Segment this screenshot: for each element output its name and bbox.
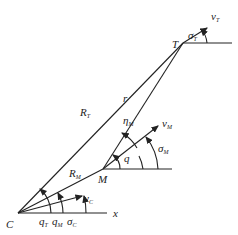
point-M-label: M [97, 173, 108, 185]
arc-q [139, 156, 143, 169]
vector-vM [103, 126, 158, 169]
sigmaM-label: σM [158, 142, 169, 155]
RT-label: RT [79, 106, 91, 119]
arc-qM [58, 193, 63, 213]
vT-label: vT [211, 10, 220, 23]
point-T-label: T [172, 38, 179, 50]
line-r [103, 43, 183, 169]
qT-label: qT [39, 215, 49, 228]
guidance-geometry-diagram: C M T RT RM r vT vM vC σT σM ηM q qT qM … [0, 0, 238, 235]
q-label: q [124, 152, 130, 164]
RM-label: RM [68, 167, 82, 180]
r-label: r [123, 92, 128, 104]
etaM-label: ηM [123, 114, 134, 127]
sigmaT-label: σT [188, 29, 197, 42]
vM-label: vM [162, 117, 173, 130]
point-C-label: C [6, 218, 14, 230]
diagram-canvas: C M T RT RM r vT vM vC σT σM ηM q qT qM … [0, 0, 238, 235]
sigmaC-label: σC [67, 215, 77, 228]
qM-label: qM [52, 215, 64, 228]
arc-sigmaM [146, 137, 158, 169]
x-axis-label: x [112, 207, 118, 219]
line-RT [18, 43, 183, 213]
vC-label: vC [84, 192, 94, 205]
line-RM [18, 169, 103, 213]
